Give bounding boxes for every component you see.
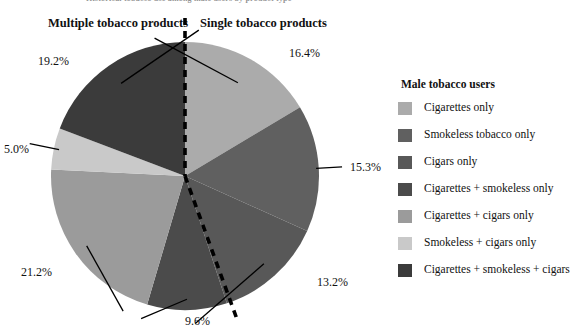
slice-value-label: 9.6% <box>185 314 210 329</box>
slice-value-label: 16.4% <box>289 46 320 61</box>
legend-color-swatch <box>398 129 412 142</box>
slice-value-label: 19.2% <box>38 54 69 69</box>
legend-item-label: Cigars only <box>424 156 477 168</box>
legend-item-label: Cigarettes + smokeless + cigars <box>424 264 570 276</box>
legend-color-swatch <box>398 264 412 277</box>
leader-line <box>316 167 342 169</box>
legend-item-label: Cigarettes + smokeless only <box>424 183 553 195</box>
legend-color-swatch <box>398 183 412 196</box>
chart-page: Historical tobacco use among male users … <box>0 0 577 335</box>
slice-value-label: 15.3% <box>350 160 381 175</box>
legend-item[interactable]: Smokeless tobacco only <box>398 128 577 142</box>
legend-item-label: Cigarettes + cigars only <box>424 210 534 222</box>
legend-item-label: Smokeless + cigars only <box>424 237 536 249</box>
legend-title: Male tobacco users <box>401 78 577 90</box>
legend-item[interactable]: Cigarettes + cigars only <box>398 209 577 223</box>
pie-chart: 16.4% 15.3% 13.2% 9.6% 21.2% 5.0% 19.2% <box>0 0 390 335</box>
slice-value-label: 13.2% <box>317 275 348 290</box>
legend-item[interactable]: Cigarettes + smokeless + cigars <box>398 263 577 277</box>
legend-item[interactable]: Smokeless + cigars only <box>398 236 577 250</box>
slice-value-label: 21.2% <box>21 265 52 280</box>
legend-color-swatch <box>398 237 412 250</box>
legend-rows: Cigarettes onlySmokeless tobacco onlyCig… <box>398 101 577 277</box>
legend-color-swatch <box>398 102 412 115</box>
slice-value-label: 5.0% <box>4 142 29 157</box>
legend: Male tobacco users Cigarettes onlySmokel… <box>398 78 577 290</box>
legend-item[interactable]: Cigarettes + smokeless only <box>398 182 577 196</box>
legend-item[interactable]: Cigars only <box>398 155 577 169</box>
legend-color-swatch <box>398 210 412 223</box>
legend-item-label: Smokeless tobacco only <box>424 129 535 141</box>
legend-color-swatch <box>398 156 412 169</box>
legend-item-label: Cigarettes only <box>424 102 494 114</box>
legend-item[interactable]: Cigarettes only <box>398 101 577 115</box>
